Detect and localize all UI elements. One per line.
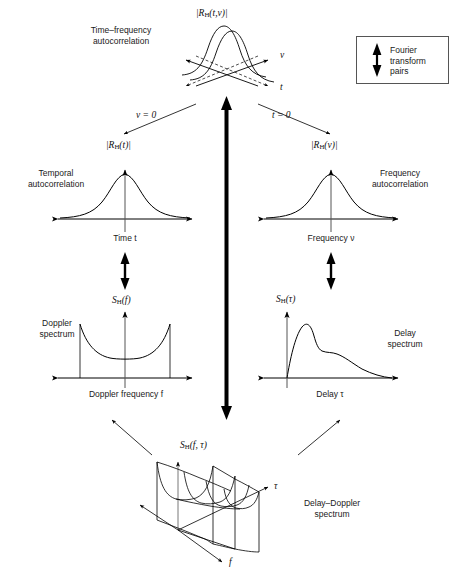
legend-line-1: Fourier xyxy=(390,45,417,55)
delay-doppler-caption: Delay–Doppler spectrum xyxy=(286,498,378,519)
frequency-caption-1: Frequency xyxy=(380,168,420,178)
diagram-vector-layer xyxy=(0,0,453,578)
delay-doppler-function-label: SH(f, τ) xyxy=(180,440,207,450)
tf-solid-axes xyxy=(186,60,268,86)
doppler-caption-1: Doppler xyxy=(42,318,72,328)
tf-function-label: |RH(t,ν)| xyxy=(196,8,228,18)
dd-envelope-right xyxy=(213,466,259,492)
delay-axis-label: Delay τ xyxy=(300,389,360,400)
dd-ridge-1 xyxy=(157,462,213,500)
temporal-axis-label: Time t xyxy=(95,233,155,244)
tf-ridge-back xyxy=(190,31,274,82)
delay-func-args: (τ) xyxy=(286,294,296,304)
chart-delay-spectrum xyxy=(264,312,398,388)
temporal-func-args: (t)| xyxy=(119,140,131,150)
chart-delay-doppler-surface xyxy=(140,462,268,562)
frequency-function-label: |RH(ν)| xyxy=(311,140,338,150)
tf-func-args: (t,ν)| xyxy=(209,8,227,18)
temporal-caption-1: Temporal xyxy=(39,168,74,178)
ft-double-arrow-right xyxy=(327,252,336,290)
legend-line-3: pairs xyxy=(390,66,408,76)
frequency-axis-label: Frequency ν xyxy=(290,233,372,244)
dd-base-front xyxy=(213,544,259,552)
frequency-caption-2: autocorrelation xyxy=(372,179,428,189)
delay-caption-2: spectrum xyxy=(388,339,423,349)
fourier-pairs-legend: Fourier transform pairs xyxy=(356,36,449,84)
dd-axis-tau-label: τ xyxy=(274,481,277,491)
tf-caption-2: autocorrelation xyxy=(93,36,149,46)
dd-caption-1: Delay–Doppler xyxy=(304,498,360,508)
frequency-func-args: (ν)| xyxy=(324,140,337,150)
tf-caption-1: Time–frequency xyxy=(91,25,152,35)
figure-canvas: Fourier transform pairs Time–frequency a… xyxy=(0,0,453,578)
chart-time-frequency-autocorrelation xyxy=(182,26,274,86)
dd-ridge-3 xyxy=(206,481,249,507)
central-double-arrow xyxy=(221,96,232,420)
tf-ridge-front xyxy=(182,26,266,77)
lower-branch-connectors xyxy=(112,420,340,455)
dd-axis-f xyxy=(178,530,222,562)
doppler-axis-label: Doppler frequency f xyxy=(68,389,184,400)
dd-envelope-left xyxy=(157,462,231,491)
temporal-caption-2: autocorrelation xyxy=(28,179,84,189)
condition-t-zero: t = 0 xyxy=(272,110,291,120)
tf-axis-t: t xyxy=(280,82,283,92)
doppler-function-label: SH(f) xyxy=(112,295,131,305)
dd-base-diag xyxy=(178,530,235,549)
temporal-function-label: |RH(t)| xyxy=(106,140,131,150)
doppler-func-args: (f) xyxy=(122,295,131,305)
doppler-caption-2: spectrum xyxy=(40,329,75,339)
delay-caption-1: Delay xyxy=(394,328,416,338)
tf-axis-nu: ν xyxy=(280,50,284,60)
dd-func-args: (f, τ) xyxy=(190,440,207,450)
delay-function-label: SH(τ) xyxy=(276,294,295,304)
dd-axis-tau xyxy=(178,487,268,530)
dd-caption-2: spectrum xyxy=(315,509,350,519)
dd-axis-f-label: f xyxy=(229,557,232,567)
temporal-caption: Temporal autocorrelation xyxy=(10,168,102,189)
ft-double-arrow-left xyxy=(121,252,130,290)
frequency-caption: Frequency autocorrelation xyxy=(352,168,448,189)
time-frequency-caption: Time–frequency autocorrelation xyxy=(73,25,169,46)
doppler-caption: Doppler spectrum xyxy=(18,318,96,339)
condition-nu-zero: ν = 0 xyxy=(136,110,156,120)
legend-line-2: transform xyxy=(390,56,426,66)
delay-caption: Delay spectrum xyxy=(370,328,440,349)
legend-text: Fourier transform pairs xyxy=(390,45,444,77)
